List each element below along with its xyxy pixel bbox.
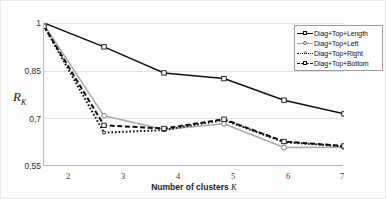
xtick-label-5: 7 <box>330 171 354 181</box>
series-marker-0-5 <box>342 112 344 116</box>
legend-key-dotted-circle-icon <box>297 49 313 58</box>
chart-legend: Diag+Top+Length Diag+Top+Left Diag+Top+R… <box>294 25 383 71</box>
legend-key-gray-circle-icon <box>297 39 313 48</box>
ytick-label-0: 1 <box>1 18 41 28</box>
chart-figure: 1 0,85 0,7 0,55 RK 2 3 4 5 6 7 Number of… <box>0 0 386 199</box>
y-axis-title-main: R <box>13 89 21 104</box>
legend-item-3[interactable]: Diag+Top+Bottom <box>297 58 380 68</box>
ytick-label-3: 0,55 <box>1 161 41 171</box>
series-marker-3-3 <box>222 117 226 121</box>
x-axis-title-text: Number of clusters <box>151 182 228 192</box>
xtick-label-0: 2 <box>56 171 80 181</box>
legend-item-1[interactable]: Diag+Top+Left <box>297 38 380 48</box>
y-axis-title: RK <box>13 89 26 107</box>
series-marker-1-1 <box>102 113 107 118</box>
legend-label-2: Diag+Top+Right <box>314 50 363 57</box>
legend-key-dashed-square-icon <box>297 59 313 68</box>
series-marker-0-4 <box>282 98 286 102</box>
xtick-label-3: 5 <box>221 171 245 181</box>
legend-item-0[interactable]: Diag+Top+Length <box>297 28 380 38</box>
xtick-label-1: 3 <box>111 171 135 181</box>
ytick-label-2: 0,7 <box>1 114 41 124</box>
series-marker-2-1 <box>103 131 106 134</box>
legend-label-1: Diag+Top+Left <box>314 40 358 47</box>
series-marker-1-4 <box>282 145 287 150</box>
series-marker-3-0 <box>44 24 46 28</box>
series-marker-3-4 <box>282 139 286 143</box>
series-marker-0-3 <box>222 76 226 80</box>
series-marker-3-2 <box>162 126 166 130</box>
series-marker-0-2 <box>162 71 166 75</box>
xtick-label-2: 4 <box>166 171 190 181</box>
ytick-label-1: 0,85 <box>1 66 41 76</box>
legend-label-0: Diag+Top+Length <box>314 30 368 37</box>
x-axis-title-symbol: K <box>231 182 237 192</box>
y-axis-title-sub: K <box>21 98 26 107</box>
series-marker-3-5 <box>342 144 344 148</box>
legend-key-solid-square-icon <box>297 29 313 38</box>
series-marker-1-3 <box>222 121 227 126</box>
legend-label-3: Diag+Top+Bottom <box>314 60 369 67</box>
xtick-label-4: 6 <box>276 171 300 181</box>
x-axis-title: Number of clusters K <box>1 182 386 192</box>
series-marker-0-1 <box>102 45 106 49</box>
series-marker-3-1 <box>102 123 106 127</box>
legend-item-2[interactable]: Diag+Top+Right <box>297 48 380 58</box>
